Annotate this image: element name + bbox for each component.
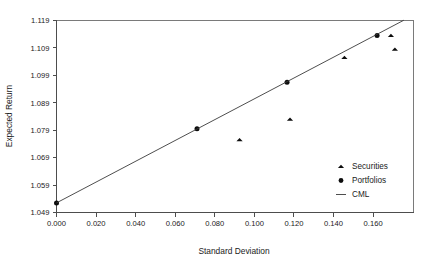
chart-legend: SecuritiesPortfoliosCML (336, 162, 388, 199)
security-point (341, 56, 347, 59)
y-axis-title: Expected Return (4, 84, 14, 147)
x-tick-label: 0.080 (205, 219, 224, 228)
x-tick-label: 0.160 (364, 219, 383, 228)
scatter-plot: 0.0000.0200.0400.0600.0800.1000.1200.140… (0, 0, 421, 265)
y-tick-label: 1.049 (30, 208, 49, 217)
x-tick-label: 0.100 (245, 219, 264, 228)
y-tick-label: 1.079 (30, 126, 49, 135)
security-point (388, 34, 394, 37)
x-tick-label: 0.120 (284, 219, 303, 228)
x-tick-label: 0.020 (87, 219, 106, 228)
x-axis-ticks: 0.0000.0200.0400.0600.0800.1000.1200.140… (47, 213, 383, 228)
y-tick-label: 1.099 (30, 71, 49, 80)
chart-container: 0.0000.0200.0400.0600.0800.1000.1200.140… (0, 0, 421, 265)
legend-label: Portfolios (352, 176, 386, 185)
x-tick-label: 0.060 (166, 219, 185, 228)
y-tick-label: 1.059 (30, 181, 49, 190)
security-point (392, 47, 398, 50)
security-point (236, 138, 242, 141)
legend-marker-portfolios (339, 178, 344, 183)
legend-label: Securities (352, 162, 388, 171)
y-axis-ticks: 1.0491.0591.0691.0791.0891.0991.1091.119 (30, 16, 56, 217)
y-tick-label: 1.109 (30, 44, 49, 53)
x-tick-label: 0.000 (47, 219, 66, 228)
security-point (287, 117, 293, 120)
x-axis-title: Standard Deviation (198, 246, 270, 256)
x-tick-label: 0.040 (126, 219, 145, 228)
y-tick-label: 1.119 (31, 16, 49, 25)
y-tick-label: 1.069 (30, 153, 49, 162)
legend-label: CML (352, 190, 370, 199)
x-tick-label: 0.140 (324, 219, 343, 228)
legend-marker-securities (338, 165, 344, 168)
y-tick-label: 1.089 (30, 99, 49, 108)
